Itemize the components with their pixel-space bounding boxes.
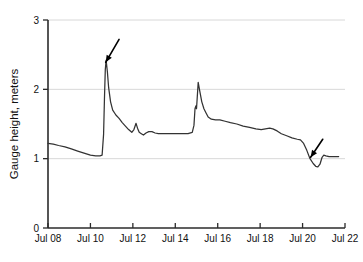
axes xyxy=(48,20,345,228)
x-tick-label-22: Jul 22 xyxy=(332,233,359,244)
data-series-line xyxy=(48,60,339,167)
x-tick-label-12: Jul 12 xyxy=(120,233,147,244)
x-tick-label-14: Jul 14 xyxy=(162,233,189,244)
arrow-low-dip-head xyxy=(311,150,317,157)
x-tick-label-18: Jul 18 xyxy=(247,233,274,244)
y-tick-label-3: 3 xyxy=(33,15,39,26)
x-tick-label-8: Jul 08 xyxy=(35,233,62,244)
y-tick-label-1: 1 xyxy=(33,153,39,164)
x-tick-label-10: Jul 10 xyxy=(77,233,104,244)
arrow-low-dip xyxy=(311,139,323,157)
y-tick-label-0: 0 xyxy=(33,223,39,234)
gridlines xyxy=(48,20,345,159)
chart-canvas: 0123 Jul 08Jul 10Jul 12Jul 14Jul 16Jul 1… xyxy=(0,0,363,262)
y-tick-label-2: 2 xyxy=(33,84,39,95)
x-axis-tick-labels: Jul 08Jul 10Jul 12Jul 14Jul 16Jul 18Jul … xyxy=(35,233,359,244)
x-tick-label-20: Jul 20 xyxy=(289,233,316,244)
gauge-height-chart: 0123 Jul 08Jul 10Jul 12Jul 14Jul 16Jul 1… xyxy=(0,0,363,262)
y-axis-title: Gauge height, meters xyxy=(8,68,20,179)
arrow-flood-peak xyxy=(106,39,119,62)
x-tick-label-16: Jul 16 xyxy=(204,233,231,244)
annotation-arrows xyxy=(106,39,323,157)
y-axis-tick-labels: 0123 xyxy=(33,15,39,234)
